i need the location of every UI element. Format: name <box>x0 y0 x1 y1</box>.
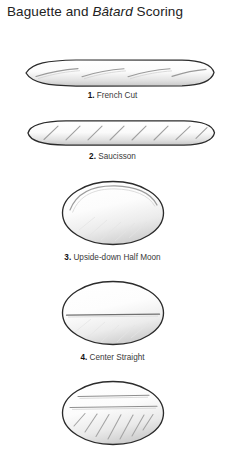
caption-label-1: French Cut <box>97 89 137 100</box>
caption-label-2: Saucisson <box>98 150 136 161</box>
loaf-illustration-upside-down-half-moon <box>61 180 165 246</box>
figure-title-italic-term: Bâtard <box>92 4 132 19</box>
caption-number-4: 4. <box>80 351 87 362</box>
caption-number-2: 2. <box>89 150 96 161</box>
figure-title-prefix: Baguette and <box>7 4 92 19</box>
loaf-illustration-saucisson <box>14 119 216 147</box>
caption-saucisson: 2. Saucisson <box>16 150 210 161</box>
caption-number-3: 3. <box>64 251 71 262</box>
loaf-illustration-french-cut <box>14 58 216 88</box>
caption-label-4: Center Straight <box>90 351 145 362</box>
caption-number-1: 1. <box>88 89 95 100</box>
baguette-scoring-figure: Baguette and Bâtard Scoring <box>0 0 225 449</box>
figure-title: Baguette and Bâtard Scoring <box>7 4 183 19</box>
caption-french-cut: 1. French Cut <box>16 89 210 100</box>
loaf-illustration-fifth-cropped <box>61 380 165 446</box>
figure-title-suffix: Scoring <box>133 4 183 19</box>
caption-label-3: Upside-down Half Moon <box>73 251 160 262</box>
loaf-illustration-center-straight <box>61 280 165 346</box>
caption-center-straight: 4. Center Straight <box>16 351 210 362</box>
caption-upside-down-half-moon: 3. Upside-down Half Moon <box>16 251 210 262</box>
